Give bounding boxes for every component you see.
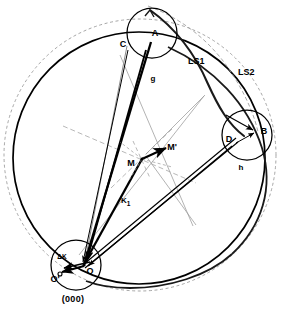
thin-ray-a-diagonal [79, 96, 204, 255]
thin-ray-m-to-lower-right [146, 156, 196, 225]
label-vector-k1: K1 [121, 196, 131, 207]
main-ewald-circle [13, 32, 265, 284]
arrow-d-to-b [236, 133, 254, 143]
label-vector-h: h [239, 163, 244, 172]
vector-o-to-m [84, 159, 142, 264]
ewald-construction-svg: A C B D M M' O O' g h K1 ΔK LS1 LS2 (000… [0, 0, 286, 310]
label-ls2: LS2 [238, 67, 255, 77]
diagram-canvas: A C B D M M' O O' g h K1 ΔK LS1 LS2 (000… [0, 0, 286, 310]
label-origin-caption: (000) [62, 294, 85, 304]
wedge-line-upper-od [84, 138, 236, 264]
label-point-m: M [127, 158, 135, 168]
vector-c-to-o-arrow [83, 50, 128, 262]
label-point-o-prime: O' [50, 274, 59, 284]
m-fan-ray-1 [120, 142, 142, 159]
label-delta-k: ΔK [57, 253, 67, 260]
construction-line-1 [63, 126, 196, 183]
vector-a-to-o-arrow [86, 50, 146, 263]
label-vector-g: g [151, 74, 156, 83]
thin-ray-upper-cross [120, 55, 193, 226]
label-point-b: B [261, 126, 268, 136]
label-ls1: LS1 [188, 56, 205, 66]
label-point-a: A [152, 28, 159, 38]
point-o-dot [82, 263, 85, 266]
label-point-m-prime: M' [167, 142, 177, 152]
label-point-o: O [86, 266, 93, 276]
label-point-c: C [120, 39, 127, 49]
label-point-d: D [226, 134, 233, 144]
long-lower-arc [168, 47, 267, 254]
label-k1-subscript: 1 [127, 200, 131, 207]
point-m-dot [141, 158, 144, 161]
